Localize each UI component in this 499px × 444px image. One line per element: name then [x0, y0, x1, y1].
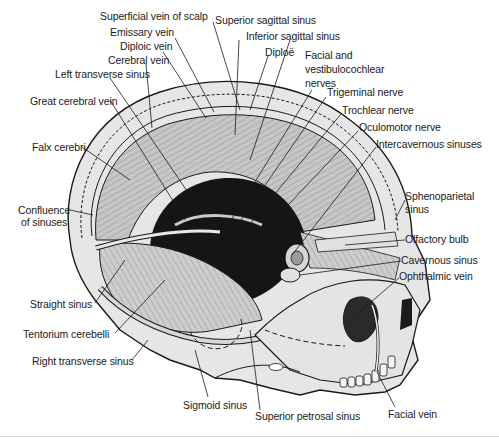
label-facial-vestibulocochlear-nerves: Facial and vestibulocochlear nerves	[305, 48, 384, 90]
label-left-transverse-sinus: Left transverse sinus	[55, 68, 150, 80]
label-sigmoid-sinus: Sigmoid sinus	[183, 399, 247, 411]
label-right-transverse-sinus: Right transverse sinus	[32, 355, 134, 367]
label-diploe: Diploë	[265, 46, 294, 58]
label-diploic-vein: Diploic vein	[120, 40, 173, 52]
label-superior-petrosal-sinus: Superior petrosal sinus	[255, 410, 360, 422]
skull-dural-sinus-illustration	[0, 0, 499, 444]
label-trigeminal-nerve: Trigeminal nerve	[327, 86, 403, 98]
label-cavernous-sinus: Cavernous sinus	[401, 254, 478, 266]
label-emissary-vein: Emissary vein	[110, 26, 174, 38]
label-intercavernous-sinuses: Intercavernous sinuses	[376, 138, 482, 150]
label-great-cerebral-vein: Great cerebral vein	[30, 95, 117, 107]
label-trochlear-nerve: Trochlear nerve	[342, 104, 414, 116]
label-sphenoparietal-sinus: Sphenoparietal sinus	[405, 190, 474, 216]
label-inferior-sagittal-sinus: Inferior sagittal sinus	[246, 30, 340, 42]
label-tentorium-cerebelli: Tentorium cerebelli	[23, 328, 109, 340]
label-superficial-vein-of-scalp: Superficial vein of scalp	[100, 10, 208, 22]
label-cerebral-vein: Cerebral vein	[108, 54, 169, 66]
label-superior-sagittal-sinus: Superior sagittal sinus	[215, 14, 316, 26]
label-olfactory-bulb: Olfactory bulb	[405, 233, 468, 245]
anatomy-figure: Superficial vein of scalp Superior sagit…	[0, 0, 499, 444]
label-confluence-of-sinuses: Confluence of sinuses	[18, 204, 70, 228]
label-straight-sinus: Straight sinus	[30, 298, 92, 310]
label-falx-cerebri: Falx cerebri	[32, 141, 86, 153]
bottom-divider	[0, 436, 499, 437]
label-ophthalmic-vein: Ophthalmic vein	[399, 270, 473, 282]
label-oculomotor-nerve: Oculomotor nerve	[359, 121, 441, 133]
label-facial-vein: Facial vein	[388, 408, 437, 420]
